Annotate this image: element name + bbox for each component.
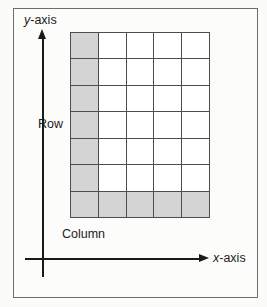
grid-cell	[99, 59, 127, 85]
grid-cell	[154, 86, 182, 112]
grid-coordinate-figure: y-axis x-axis Row Column	[0, 0, 267, 307]
x-axis-label-suffix: -axis	[219, 251, 245, 265]
grid-cell	[71, 33, 99, 59]
grid-cell	[154, 139, 182, 165]
grid-cell	[99, 33, 127, 59]
y-axis-label-suffix: -axis	[30, 13, 56, 27]
grid-cell	[182, 86, 210, 112]
grid-cell	[127, 33, 155, 59]
grid-cell	[99, 192, 127, 218]
grid-cell	[127, 165, 155, 191]
grid-cell	[182, 139, 210, 165]
grid-cell	[99, 139, 127, 165]
x-axis-label: x-axis	[213, 252, 246, 265]
grid-cell	[71, 59, 99, 85]
grid-cell	[71, 165, 99, 191]
grid-cell	[127, 86, 155, 112]
x-axis-arrow-icon	[199, 254, 209, 262]
grid-cell	[127, 192, 155, 218]
y-axis-line	[42, 38, 44, 277]
row-label: Row	[38, 118, 63, 131]
grid-cell	[154, 192, 182, 218]
grid-cell	[127, 112, 155, 138]
y-axis-arrow-icon	[38, 29, 46, 39]
grid-cell	[127, 139, 155, 165]
grid-cell	[154, 59, 182, 85]
grid-cell	[154, 112, 182, 138]
grid-cell	[182, 165, 210, 191]
grid-cell	[99, 86, 127, 112]
column-label: Column	[62, 228, 105, 241]
grid-cell	[99, 112, 127, 138]
grid-cell	[182, 59, 210, 85]
cell-grid	[70, 32, 210, 218]
y-axis-label: y-axis	[24, 14, 57, 27]
grid-cell	[154, 33, 182, 59]
x-axis-line	[25, 258, 202, 260]
grid-cell	[182, 192, 210, 218]
grid-cell	[71, 112, 99, 138]
grid-cell	[71, 139, 99, 165]
grid-cell	[182, 112, 210, 138]
grid-cell	[182, 33, 210, 59]
grid-cell	[154, 165, 182, 191]
grid-cell	[71, 192, 99, 218]
grid-cell	[99, 165, 127, 191]
grid-cell	[127, 59, 155, 85]
grid-cell	[71, 86, 99, 112]
